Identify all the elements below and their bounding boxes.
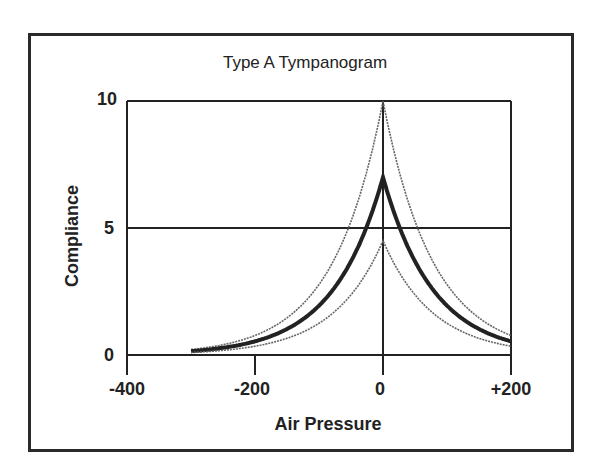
tympanogram-chart: Type A Tympanogram -400 -200 0 +200 0 5 … (0, 0, 597, 474)
x-tick-label: -200 (234, 379, 270, 399)
y-tick-label: 5 (104, 218, 114, 238)
axes (127, 101, 511, 375)
y-axis-label: Compliance (62, 185, 82, 287)
y-tick-label: 0 (104, 345, 114, 365)
typical-curve (191, 177, 511, 351)
curves (191, 101, 511, 353)
x-axis-label: Air Pressure (274, 414, 381, 434)
y-tick-label: 10 (97, 89, 117, 109)
x-tick-label: -400 (109, 379, 145, 399)
x-tick-label: 0 (375, 379, 385, 399)
upper-limit-curve (191, 101, 511, 350)
x-tick-label: +200 (491, 379, 532, 399)
chart-title: Type A Tympanogram (223, 53, 387, 72)
